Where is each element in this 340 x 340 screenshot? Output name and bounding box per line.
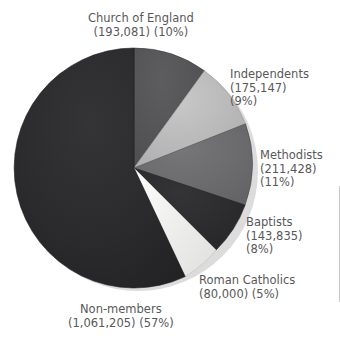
pie-label-baptists-value: (143,835)	[246, 230, 303, 244]
pie-label-independents: Independents (175,147) (9%)	[230, 68, 309, 109]
pie-label-church-of-england-value: (193,081) (10%)	[88, 26, 194, 40]
pie-label-baptists-name: Baptists	[246, 216, 303, 230]
pie-label-independents-name: Independents	[230, 68, 309, 82]
pie-label-baptists-percent: (8%)	[246, 243, 303, 257]
pie-label-non-members: Non-members (1,061,205) (57%)	[68, 303, 174, 330]
pie-label-independents-value: (175,147)	[230, 82, 309, 96]
pie-label-independents-percent: (9%)	[230, 95, 309, 109]
pie-label-roman-catholics-name: Roman Catholics	[199, 274, 295, 288]
pie-label-roman-catholics-value: (80,000) (5%)	[199, 288, 295, 302]
pie-label-methodists: Methodists (211,428) (11%)	[260, 149, 323, 190]
pie-label-methodists-name: Methodists	[260, 149, 323, 163]
pie-label-methodists-value: (211,428)	[260, 163, 323, 177]
pie-label-roman-catholics: Roman Catholics (80,000) (5%)	[199, 274, 295, 301]
pie-label-non-members-name: Non-members	[68, 303, 174, 317]
pie-label-church-of-england-name: Church of England	[88, 12, 194, 26]
pie-label-methodists-percent: (11%)	[260, 176, 323, 190]
pie-label-church-of-england: Church of England (193,081) (10%)	[88, 12, 194, 39]
pie-label-baptists: Baptists (143,835) (8%)	[246, 216, 303, 257]
pie-chart-figure: Church of England (193,081) (10%) Indepe…	[0, 0, 340, 340]
pie-label-non-members-value: (1,061,205) (57%)	[68, 317, 174, 331]
